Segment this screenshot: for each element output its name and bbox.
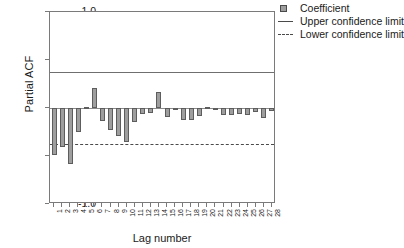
coefficient-bar bbox=[140, 108, 145, 114]
x-tick-label: 3 bbox=[72, 209, 79, 213]
dashed-line-icon bbox=[278, 28, 294, 41]
solid-line-icon bbox=[278, 15, 294, 28]
x-tick-label: 10 bbox=[129, 209, 136, 217]
coefficient-bar bbox=[261, 108, 266, 118]
coefficient-bar bbox=[156, 92, 161, 108]
y-tick-mark bbox=[45, 203, 49, 204]
x-tick-label: 9 bbox=[121, 209, 128, 213]
x-tick-label: 13 bbox=[153, 209, 160, 217]
coefficient-bar bbox=[165, 108, 170, 117]
x-tick-mark bbox=[223, 203, 224, 207]
chart-legend: Coefficient Upper confidence limit Lower… bbox=[278, 2, 404, 41]
coefficient-bar bbox=[189, 108, 194, 120]
x-tick-mark bbox=[247, 203, 248, 207]
x-tick-label: 5 bbox=[88, 209, 95, 213]
legend-item-coefficient: Coefficient bbox=[278, 2, 404, 15]
x-tick-label: 16 bbox=[177, 209, 184, 217]
coefficient-bar bbox=[84, 107, 89, 109]
x-tick-label: 4 bbox=[80, 209, 87, 213]
x-tick-mark bbox=[126, 203, 127, 207]
coefficient-bar bbox=[116, 108, 121, 136]
y-axis-title: Partial ACF bbox=[23, 29, 35, 139]
legend-label-lower-confidence-limit: Lower confidence limit bbox=[300, 29, 404, 40]
coefficient-bar bbox=[108, 108, 113, 130]
coefficient-bar bbox=[52, 108, 57, 155]
x-tick-mark bbox=[150, 203, 151, 207]
x-tick-label: 12 bbox=[145, 209, 152, 217]
x-tick-mark bbox=[85, 203, 86, 207]
x-tick-mark bbox=[174, 203, 175, 207]
x-tick-label: 11 bbox=[137, 209, 144, 216]
x-tick-mark bbox=[206, 203, 207, 207]
x-tick-mark bbox=[101, 203, 102, 207]
coefficient-bar bbox=[100, 108, 105, 121]
coefficient-bar bbox=[76, 108, 81, 132]
x-tick-label: 1 bbox=[56, 209, 63, 213]
x-tick-label: 19 bbox=[201, 209, 208, 217]
x-tick-mark bbox=[198, 203, 199, 207]
coefficient-bar bbox=[124, 108, 129, 142]
upper-confidence-limit-line bbox=[50, 72, 274, 73]
coefficient-bar bbox=[229, 108, 234, 115]
coefficient-bar bbox=[221, 108, 226, 115]
x-tick-label: 2 bbox=[64, 209, 71, 213]
x-tick-label: 22 bbox=[226, 209, 233, 217]
x-tick-mark bbox=[69, 203, 70, 207]
coefficient-bar bbox=[60, 108, 65, 147]
x-tick-mark bbox=[110, 203, 111, 207]
x-tick-label: 7 bbox=[104, 209, 111, 213]
x-tick-mark bbox=[231, 203, 232, 207]
x-tick-mark bbox=[271, 203, 272, 207]
coefficient-bar bbox=[92, 88, 97, 108]
x-tick-label: 23 bbox=[234, 209, 241, 217]
plot-area bbox=[49, 11, 275, 203]
x-tick-label: 25 bbox=[250, 209, 257, 217]
x-tick-mark bbox=[93, 203, 94, 207]
x-tick-mark bbox=[190, 203, 191, 207]
x-tick-label: 15 bbox=[169, 209, 176, 217]
x-tick-label: 26 bbox=[258, 209, 265, 217]
x-tick-label: 20 bbox=[209, 209, 216, 217]
x-tick-mark bbox=[53, 203, 54, 207]
x-tick-label: 8 bbox=[113, 209, 120, 213]
coefficient-bar bbox=[245, 108, 250, 115]
coefficient-bar bbox=[173, 108, 178, 110]
lower-confidence-limit-line bbox=[50, 144, 274, 145]
coefficient-bar bbox=[253, 108, 258, 112]
coefficient-bar bbox=[237, 108, 242, 114]
square-swatch-icon bbox=[278, 2, 294, 15]
x-tick-label: 14 bbox=[161, 209, 168, 217]
x-tick-mark bbox=[61, 203, 62, 207]
x-tick-mark bbox=[134, 203, 135, 207]
legend-label-coefficient: Coefficient bbox=[300, 3, 349, 14]
x-tick-label: 18 bbox=[193, 209, 200, 217]
x-tick-mark bbox=[214, 203, 215, 207]
x-tick-label: 28 bbox=[274, 209, 281, 217]
x-tick-mark bbox=[166, 203, 167, 207]
x-tick-label: 17 bbox=[185, 209, 192, 217]
x-tick-label: 6 bbox=[96, 209, 103, 213]
x-tick-label: 24 bbox=[242, 209, 249, 217]
coefficient-bar bbox=[205, 107, 210, 109]
x-tick-label: 27 bbox=[266, 209, 273, 217]
coefficient-bar bbox=[269, 108, 274, 111]
x-tick-mark bbox=[255, 203, 256, 207]
coefficient-bar bbox=[197, 108, 202, 116]
legend-item-lower-confidence-limit: Lower confidence limit bbox=[278, 28, 404, 41]
x-tick-mark bbox=[263, 203, 264, 207]
x-tick-mark bbox=[158, 203, 159, 207]
coefficient-bar bbox=[213, 108, 218, 110]
x-tick-mark bbox=[182, 203, 183, 207]
x-tick-label: 21 bbox=[217, 209, 224, 217]
x-tick-mark bbox=[77, 203, 78, 207]
coefficient-bar bbox=[68, 108, 73, 164]
legend-label-upper-confidence-limit: Upper confidence limit bbox=[300, 16, 404, 27]
coefficient-bar bbox=[181, 108, 186, 120]
x-tick-mark bbox=[118, 203, 119, 207]
x-axis-title: Lag number bbox=[49, 232, 275, 244]
coefficient-bar bbox=[148, 108, 153, 113]
x-tick-mark bbox=[142, 203, 143, 207]
x-tick-mark bbox=[239, 203, 240, 207]
coefficient-bar bbox=[132, 108, 137, 122]
